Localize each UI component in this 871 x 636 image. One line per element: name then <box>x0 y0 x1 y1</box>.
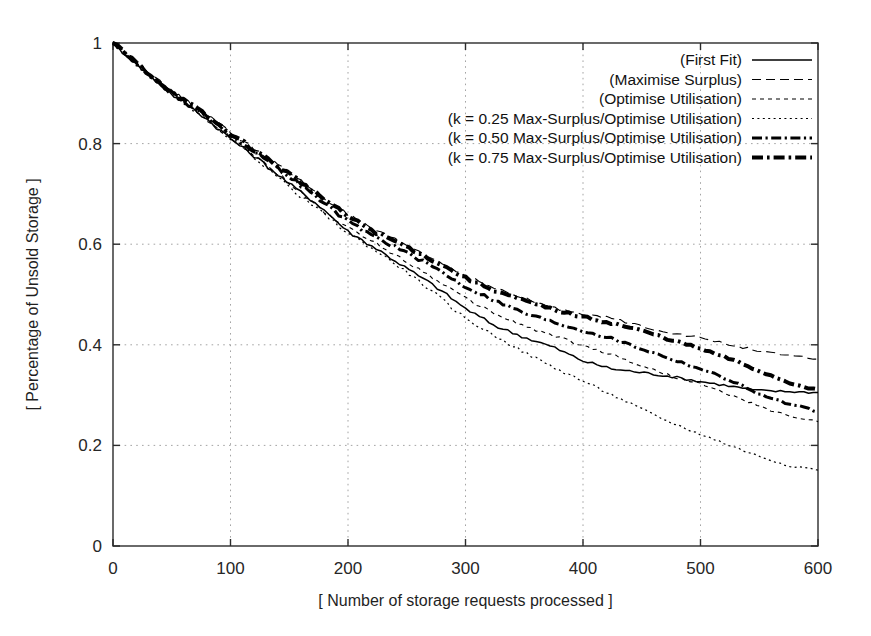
line-chart-figure: 00.20.40.60.810100200300400500600 [ Numb… <box>0 0 871 636</box>
legend: (First Fit)(Maximise Surplus)(Optimise U… <box>448 51 812 166</box>
legend-label: (First Fit) <box>680 51 742 68</box>
y-tick-label: 0.6 <box>78 235 102 254</box>
legend-label: (Optimise Utilisation) <box>599 90 742 107</box>
x-tick-label: 300 <box>451 559 479 578</box>
chart-canvas: 00.20.40.60.810100200300400500600 [ Numb… <box>0 0 871 636</box>
x-tick-label: 200 <box>334 559 362 578</box>
y-axis-title: [ Percentage of Unsold Storage ] <box>24 178 41 410</box>
x-tick-label: 0 <box>108 559 117 578</box>
legend-label: (k = 0.75 Max-Surplus/Optimise Utilisati… <box>448 149 742 166</box>
x-tick-label: 600 <box>804 559 832 578</box>
y-tick-label: 0.2 <box>78 436 102 455</box>
y-tick-label: 0.8 <box>78 135 102 154</box>
x-tick-label: 500 <box>686 559 714 578</box>
y-tick-label: 0 <box>93 537 102 556</box>
x-tick-label: 100 <box>216 559 244 578</box>
legend-label: (k = 0.25 Max-Surplus/Optimise Utilisati… <box>448 110 742 127</box>
x-tick-label: 400 <box>569 559 597 578</box>
x-axis-title: [ Number of storage requests processed ] <box>318 592 612 609</box>
y-tick-label: 0.4 <box>78 336 102 355</box>
legend-label: (Maximise Surplus) <box>609 71 742 88</box>
y-tick-label: 1 <box>93 34 102 53</box>
legend-label: (k = 0.50 Max-Surplus/Optimise Utilisati… <box>448 129 742 146</box>
